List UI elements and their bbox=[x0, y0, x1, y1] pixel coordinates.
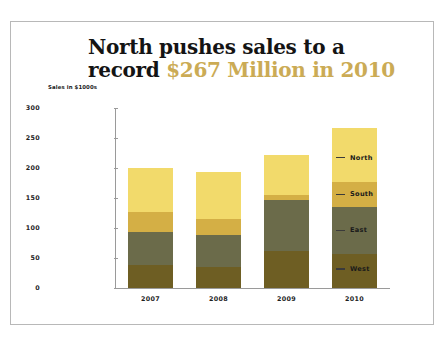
chart-title-accent: $267 Million in 2010 bbox=[166, 58, 395, 82]
y-tick bbox=[114, 288, 118, 289]
bar-stack bbox=[264, 155, 309, 288]
chart-title: North pushes sales to a record $267 Mill… bbox=[88, 36, 418, 82]
y-tick bbox=[114, 198, 118, 199]
y-tick bbox=[114, 228, 118, 229]
bar-segment-south bbox=[128, 212, 173, 232]
bar-segment-west bbox=[264, 251, 309, 288]
legend-item-east[interactable]: East bbox=[336, 226, 367, 234]
bar-stack bbox=[196, 172, 241, 288]
legend-dash-icon bbox=[336, 268, 345, 269]
legend-label: North bbox=[350, 154, 373, 162]
x-tick-label: 2009 bbox=[264, 295, 309, 303]
bar-stack bbox=[128, 168, 173, 288]
y-tick-label: 0 bbox=[10, 284, 40, 292]
plot-area: 050100150200250300 2007200820092010 Nort… bbox=[48, 92, 418, 317]
legend-label: West bbox=[350, 265, 370, 273]
y-tick-label: 300 bbox=[10, 104, 40, 112]
y-tick-label: 100 bbox=[10, 224, 40, 232]
legend-label: South bbox=[350, 190, 373, 198]
legend-item-north[interactable]: North bbox=[336, 154, 373, 162]
bar-segment-south bbox=[196, 219, 241, 235]
x-tick-label: 2007 bbox=[128, 295, 173, 303]
legend-dash-icon bbox=[336, 194, 345, 195]
y-axis-title: Sales in $1000s bbox=[48, 84, 97, 90]
y-tick bbox=[114, 168, 118, 169]
legend-dash-icon bbox=[336, 157, 345, 158]
bar-segment-east bbox=[264, 200, 309, 251]
chart-title-line-1: North pushes sales to a bbox=[88, 36, 418, 59]
legend-item-west[interactable]: West bbox=[336, 265, 370, 273]
y-tick-label: 50 bbox=[10, 254, 40, 262]
bar-segment-north bbox=[196, 172, 241, 219]
chart-title-line-2: record $267 Million in 2010 bbox=[88, 59, 418, 82]
chart-title-prefix: record bbox=[88, 58, 166, 82]
legend-dash-icon bbox=[336, 230, 345, 231]
legend-item-south[interactable]: South bbox=[336, 190, 373, 198]
y-tick bbox=[114, 108, 118, 109]
x-tick-label: 2010 bbox=[332, 295, 377, 303]
y-tick-label: 150 bbox=[10, 194, 40, 202]
bar-segment-west bbox=[196, 267, 241, 288]
y-tick bbox=[114, 138, 118, 139]
y-tick-label: 200 bbox=[10, 164, 40, 172]
bar-segment-north bbox=[128, 168, 173, 212]
y-tick-label: 250 bbox=[10, 134, 40, 142]
bar-segment-north bbox=[264, 155, 309, 195]
legend-label: East bbox=[350, 226, 367, 234]
x-tick-label: 2008 bbox=[196, 295, 241, 303]
chart-card: North pushes sales to a record $267 Mill… bbox=[10, 21, 434, 325]
y-tick bbox=[114, 258, 118, 259]
bar-segment-east bbox=[196, 235, 241, 267]
bar-segment-east bbox=[128, 232, 173, 265]
x-axis-line bbox=[115, 288, 390, 289]
bar-segment-west bbox=[128, 265, 173, 288]
